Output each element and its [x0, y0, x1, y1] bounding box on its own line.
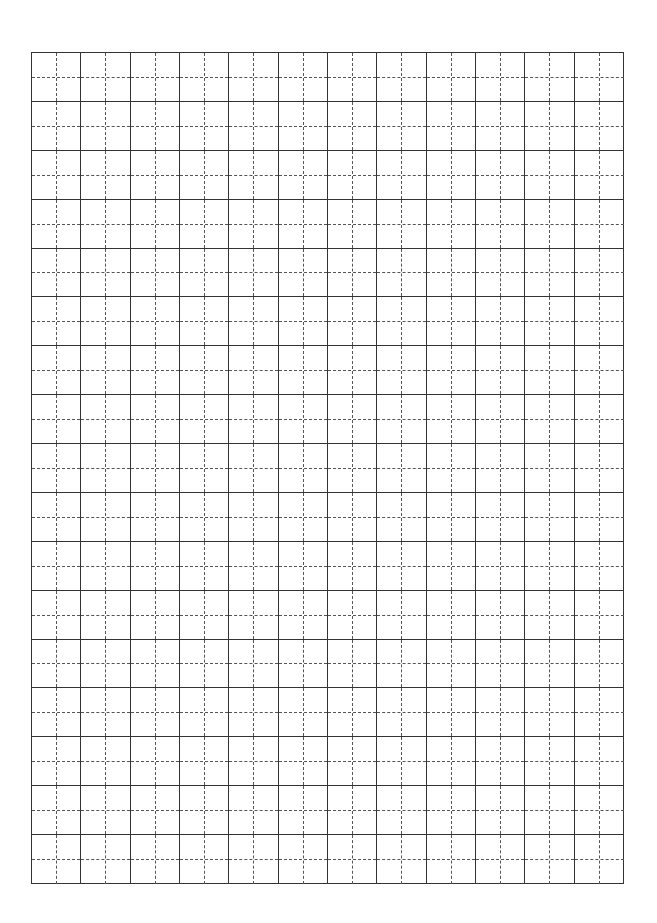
- vertical-guide-line: [56, 395, 57, 443]
- grid-cell: [476, 249, 525, 298]
- grid-cell: [476, 835, 525, 884]
- vertical-guide-line: [56, 835, 57, 884]
- grid-cell: [476, 542, 525, 591]
- vertical-guide-line: [105, 688, 106, 736]
- grid-cell: [575, 786, 624, 835]
- grid-cell: [279, 151, 328, 200]
- vertical-guide-line: [253, 297, 254, 345]
- vertical-guide-line: [105, 542, 106, 590]
- grid-cell: [476, 444, 525, 493]
- vertical-guide-line: [401, 591, 402, 639]
- vertical-guide-line: [204, 53, 205, 101]
- grid-cell: [180, 53, 229, 102]
- vertical-guide-line: [500, 346, 501, 394]
- grid-cell: [81, 297, 130, 346]
- grid-cell: [279, 444, 328, 493]
- vertical-guide-line: [253, 542, 254, 590]
- vertical-guide-line: [155, 591, 156, 639]
- vertical-guide-line: [352, 53, 353, 101]
- grid-cell: [32, 640, 81, 689]
- grid-cell: [427, 444, 476, 493]
- vertical-guide-line: [401, 737, 402, 785]
- vertical-guide-line: [451, 249, 452, 297]
- vertical-guide-line: [204, 786, 205, 834]
- vertical-guide-line: [155, 786, 156, 834]
- vertical-guide-line: [401, 200, 402, 248]
- grid-cell: [476, 297, 525, 346]
- vertical-guide-line: [253, 835, 254, 884]
- vertical-guide-line: [155, 640, 156, 688]
- vertical-guide-line: [253, 786, 254, 834]
- grid-cell: [81, 591, 130, 640]
- vertical-guide-line: [303, 640, 304, 688]
- grid-cell: [32, 493, 81, 542]
- vertical-guide-line: [155, 444, 156, 492]
- vertical-guide-line: [500, 297, 501, 345]
- grid-cell: [476, 737, 525, 786]
- grid-cell: [427, 53, 476, 102]
- grid-cell: [575, 591, 624, 640]
- vertical-guide-line: [352, 444, 353, 492]
- vertical-guide-line: [599, 53, 600, 101]
- grid-cell: [180, 249, 229, 298]
- vertical-guide-line: [56, 200, 57, 248]
- vertical-guide-line: [303, 493, 304, 541]
- vertical-guide-line: [253, 249, 254, 297]
- vertical-guide-line: [303, 297, 304, 345]
- grid-cell: [180, 444, 229, 493]
- vertical-guide-line: [204, 395, 205, 443]
- vertical-guide-line: [303, 444, 304, 492]
- vertical-guide-line: [500, 688, 501, 736]
- grid-cell: [32, 53, 81, 102]
- grid-cell: [575, 53, 624, 102]
- grid-cell: [229, 346, 278, 395]
- vertical-guide-line: [253, 444, 254, 492]
- grid-cell: [131, 591, 180, 640]
- grid-cell: [427, 493, 476, 542]
- grid-cell: [279, 542, 328, 591]
- vertical-guide-line: [401, 151, 402, 199]
- vertical-guide-line: [204, 493, 205, 541]
- grid-cell: [32, 395, 81, 444]
- grid-cell: [131, 737, 180, 786]
- grid-cell: [180, 395, 229, 444]
- vertical-guide-line: [599, 102, 600, 150]
- grid-cell: [131, 493, 180, 542]
- vertical-guide-line: [105, 591, 106, 639]
- vertical-guide-line: [451, 640, 452, 688]
- grid-cell: [377, 200, 426, 249]
- grid-cell: [476, 346, 525, 395]
- vertical-guide-line: [303, 200, 304, 248]
- vertical-guide-line: [155, 395, 156, 443]
- grid-cell: [476, 53, 525, 102]
- vertical-guide-line: [451, 786, 452, 834]
- vertical-guide-line: [105, 835, 106, 884]
- grid-cell: [32, 591, 81, 640]
- vertical-guide-line: [500, 591, 501, 639]
- vertical-guide-line: [204, 688, 205, 736]
- grid-cell: [279, 395, 328, 444]
- grid-cell: [525, 53, 574, 102]
- vertical-guide-line: [401, 53, 402, 101]
- grid-cell: [229, 542, 278, 591]
- vertical-guide-line: [105, 493, 106, 541]
- vertical-guide-line: [451, 737, 452, 785]
- vertical-guide-line: [56, 297, 57, 345]
- vertical-guide-line: [451, 688, 452, 736]
- grid-cell: [81, 395, 130, 444]
- grid-cell: [328, 542, 377, 591]
- grid-cell: [229, 395, 278, 444]
- grid-cell: [279, 640, 328, 689]
- grid-cell: [131, 640, 180, 689]
- vertical-guide-line: [105, 297, 106, 345]
- grid-cell: [476, 395, 525, 444]
- grid-cell: [81, 200, 130, 249]
- grid-cell: [377, 493, 426, 542]
- grid-cell: [180, 346, 229, 395]
- grid-cell: [328, 688, 377, 737]
- vertical-guide-line: [204, 444, 205, 492]
- grid-cell: [575, 640, 624, 689]
- vertical-guide-line: [549, 835, 550, 884]
- grid-cell: [131, 395, 180, 444]
- vertical-guide-line: [500, 444, 501, 492]
